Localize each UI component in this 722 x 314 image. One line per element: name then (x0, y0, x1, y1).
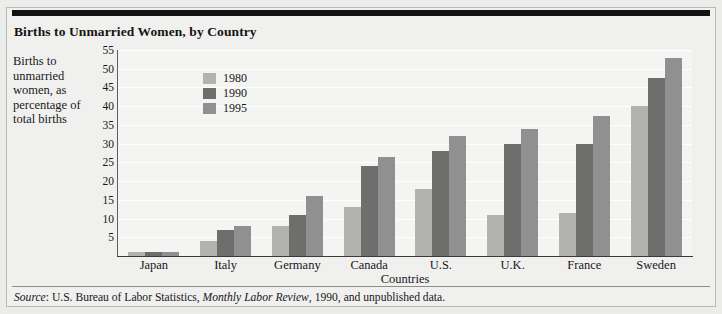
bar-group (415, 50, 467, 256)
x-tick-label: France (567, 258, 601, 273)
bar (432, 151, 449, 256)
bar (217, 230, 234, 256)
bar (415, 189, 432, 256)
bar (289, 215, 306, 256)
y-tick-label: 15 (86, 194, 114, 206)
bar-group (343, 50, 395, 256)
x-tick-label: Germany (274, 258, 321, 273)
chart-title: Births to Unmarried Women, by Country (14, 24, 257, 40)
y-tick-label: 30 (86, 138, 114, 150)
bar-group (558, 50, 610, 256)
bar-group (630, 50, 682, 256)
bar (504, 144, 521, 256)
y-tick-label: 5 (86, 231, 114, 243)
legend-label: 1990 (223, 86, 247, 101)
x-tick-label: Sweden (636, 258, 676, 273)
legend-swatch-icon (203, 88, 216, 99)
legend-label: 1980 (223, 71, 247, 86)
y-tick-label: 50 (86, 63, 114, 75)
x-axis-line (117, 256, 693, 257)
source-text-part2: , 1990, and unpublished data. (309, 291, 445, 304)
bar (559, 213, 576, 256)
y-tick-label: 35 (86, 119, 114, 131)
legend-item: 1995 (203, 102, 247, 115)
source-note: Source: U.S. Bureau of Labor Statistics,… (14, 291, 445, 304)
bar (272, 226, 289, 256)
bar (593, 116, 610, 256)
y-axis-line (117, 50, 118, 256)
bar-group (487, 50, 539, 256)
bar (631, 106, 648, 256)
x-tick-label: Canada (350, 258, 387, 273)
source-rule (12, 286, 710, 287)
bar (665, 58, 682, 257)
source-prefix: Source (14, 291, 46, 304)
bar (200, 241, 217, 256)
bar (234, 226, 251, 256)
bar (521, 129, 538, 256)
x-tick-label: Italy (214, 258, 237, 273)
bar (449, 136, 466, 256)
legend-label: 1995 (223, 101, 247, 116)
top-rule (12, 10, 710, 16)
source-publication-title: Monthly Labor Review (203, 291, 309, 304)
bar (576, 144, 593, 256)
bar (378, 157, 395, 256)
y-axis-tick-labels: 510152025303540455055 (84, 50, 114, 256)
y-tick-label: 40 (86, 100, 114, 112)
legend-item: 1980 (203, 72, 247, 85)
legend-item: 1990 (203, 87, 247, 100)
x-tick-label: U.K. (500, 258, 524, 273)
y-tick-label: 55 (86, 44, 114, 56)
figure-panel: Births to Unmarried Women, by Country Bi… (0, 0, 722, 314)
bar (487, 215, 504, 256)
legend-swatch-icon (203, 103, 216, 114)
bar-group (128, 50, 180, 256)
legend: 198019901995 (203, 72, 247, 117)
y-tick-label: 25 (86, 156, 114, 168)
y-axis-label: Births to unmarried women, as percentage… (13, 54, 91, 127)
y-tick-label: 10 (86, 213, 114, 225)
bar-group (271, 50, 323, 256)
legend-swatch-icon (203, 73, 216, 84)
bar (306, 196, 323, 256)
source-text-part1: U.S. Bureau of Labor Statistics, (52, 291, 203, 304)
x-tick-label: Japan (140, 258, 168, 273)
x-axis-label: Countries (118, 272, 692, 287)
bar (361, 166, 378, 256)
y-tick-label: 20 (86, 175, 114, 187)
y-tick-label: 45 (86, 81, 114, 93)
bar (648, 78, 665, 256)
bar (344, 207, 361, 256)
x-tick-label: U.S. (430, 258, 452, 273)
